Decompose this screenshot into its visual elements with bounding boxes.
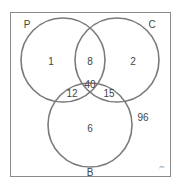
region-p-c-b: 40	[84, 79, 96, 90]
region-b-only: 6	[87, 123, 93, 134]
region-p-only: 1	[48, 56, 54, 67]
universal-set-mark: ξ	[159, 166, 165, 169]
region-p-b: 12	[66, 88, 78, 99]
set-label-c: C	[148, 19, 155, 30]
set-label-p: P	[24, 19, 31, 30]
region-c-only: 2	[130, 56, 136, 67]
venn-diagram: P C B 1 2 6 8 12 15 40 96 ξ	[0, 0, 179, 185]
universal-set-frame	[11, 13, 171, 177]
set-label-b: B	[87, 167, 94, 178]
region-p-c: 8	[87, 56, 93, 67]
region-outside: 96	[137, 112, 149, 123]
region-c-b: 15	[103, 88, 115, 99]
